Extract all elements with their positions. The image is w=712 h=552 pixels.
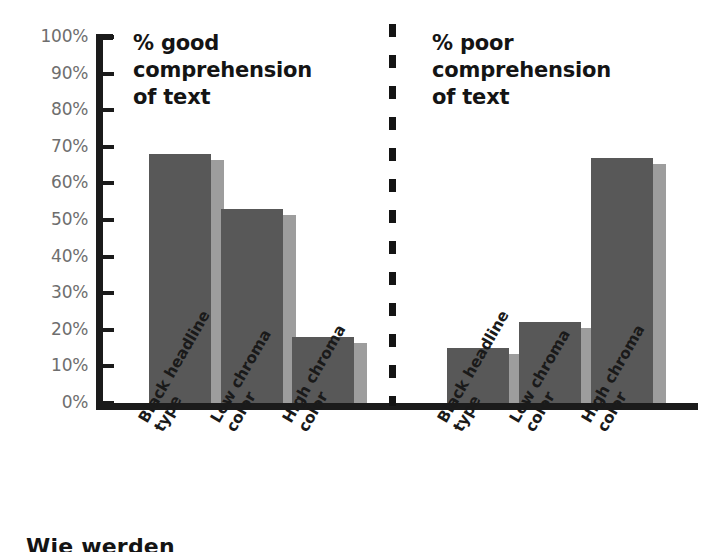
bottom-cropped-caption: Wie werden <box>26 534 175 552</box>
bar-chart-figure: 100%90%80%70%60%50%40%30%20%10%0% % good… <box>0 0 712 552</box>
bar-side-face <box>653 164 666 403</box>
